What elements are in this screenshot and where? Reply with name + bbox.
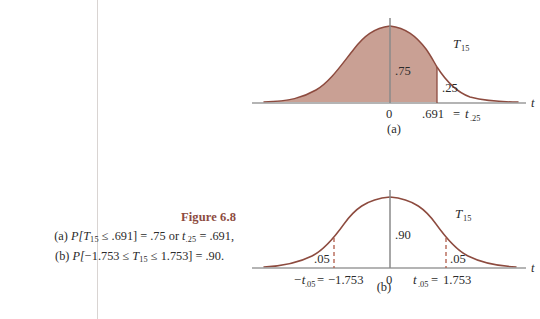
chart-a-equals-sign: = [453, 107, 460, 121]
chart-a-shaded-area [264, 26, 437, 102]
caption-a-variable-sub: 15 [90, 235, 99, 244]
chart-panel-a: T 15 .75 .25 t 0 .691 = t .25 (a) [250, 4, 540, 146]
chart-b-sub-label: (b) [364, 280, 404, 295]
chart-b-area-label: .90 [395, 228, 411, 242]
chart-a-area-label: .75 [395, 64, 411, 78]
caption-b-upper: ≤ 1.753] = .90. [148, 249, 224, 263]
chart-a-curve-label-sub: 15 [461, 44, 469, 53]
chart-b-left-tail-label: .05 [314, 252, 330, 266]
chart-a-critical-name-sub: .25 [470, 114, 480, 123]
chart-a-critical-value-label: .691 [422, 107, 444, 121]
chart-a-axis-label: t [531, 96, 535, 110]
chart-b-curve-label: T [455, 206, 463, 221]
chart-a-origin-label: 0 [386, 107, 392, 121]
figure-caption-block: Figure 6.8 (a) P[T15 ≤ .691] = .75 or t.… [10, 210, 236, 269]
chart-b-curve-label-sub: 15 [463, 214, 471, 223]
caption-a-prefix: (a) [54, 229, 71, 243]
chart-a-critical-name: t [465, 106, 469, 121]
page-margin-rule [97, 0, 98, 319]
caption-b-p: P[ [73, 249, 85, 263]
chart-b-left-equals-sign: = [317, 273, 324, 287]
caption-a-tail: = .691, [196, 229, 234, 243]
chart-b-right-critical-name-sub: .05 [418, 280, 428, 289]
chart-b-axis-label: t [531, 261, 535, 275]
chart-b-right-equals-sign: = [431, 273, 438, 287]
chart-b-left-critical-name: −t [293, 272, 306, 287]
caption-b-lower: −1.753 ≤ [85, 249, 133, 263]
chart-a-sub-label: (a) [374, 122, 414, 137]
chart-b-right-critical-value: 1.753 [443, 273, 471, 287]
caption-b-prefix: (b) [55, 249, 72, 263]
figure-caption-line-a: (a) P[T15 ≤ .691] = .75 or t.25 = .691, [10, 228, 236, 248]
chart-b-right-critical-name: t [413, 272, 417, 287]
caption-a-relation: ≤ .691] = .75 or [99, 229, 182, 243]
caption-a-p: P[ [71, 229, 83, 243]
figure-title: Figure 6.8 [10, 210, 236, 225]
chart-b-left-critical-value: −1.753 [328, 273, 363, 287]
chart-panel-b: T 15 .90 .05 .05 t −t .05 = −1.753 0 t .… [250, 160, 540, 315]
chart-a-curve-label: T [453, 36, 461, 51]
figure-caption-line-b: (b) P[−1.753 ≤ T15 ≤ 1.753] = .90. [10, 248, 236, 268]
chart-a-tail-label: .25 [442, 81, 458, 95]
caption-b-variable-sub: 15 [139, 256, 148, 265]
caption-a-t-sub: .25 [185, 235, 196, 244]
chart-b-right-tail-label: .05 [450, 252, 466, 266]
chart-b-left-critical-name-sub: .05 [305, 280, 315, 289]
